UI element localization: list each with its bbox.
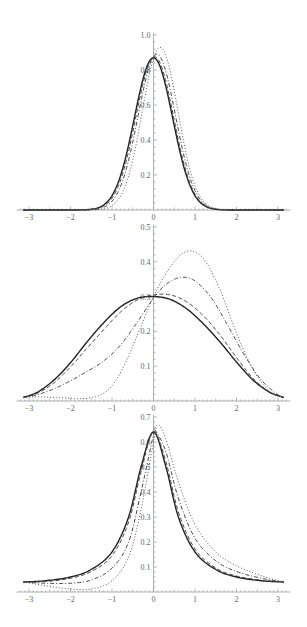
x-tick-label: 3	[276, 213, 280, 222]
x-tick-label: −2	[66, 595, 75, 604]
y-tick-label: 0.7	[141, 413, 151, 422]
chart-3: −3−2−101230.10.20.30.40.50.60.7	[17, 413, 291, 604]
x-tick-label: −3	[25, 404, 34, 413]
x-tick-label: −1	[108, 404, 117, 413]
y-tick-label: 0.2	[141, 171, 151, 180]
chart-canvas: −3−2−101230.20.40.60.81.0−3−2−101230.10.…	[0, 0, 307, 627]
x-tick-label: −1	[108, 595, 117, 604]
y-tick-label: 0.2	[141, 538, 151, 547]
x-tick-label: −3	[25, 213, 34, 222]
x-tick-label: −3	[25, 595, 34, 604]
y-tick-label: 0.1	[141, 362, 151, 371]
y-tick-label: 0.5	[141, 223, 151, 232]
x-tick-label: 2	[235, 404, 239, 413]
y-tick-label: 0.2	[141, 327, 151, 336]
y-tick-label: 0.4	[141, 136, 151, 145]
x-tick-label: 3	[276, 595, 280, 604]
x-tick-label: 1	[193, 213, 197, 222]
y-tick-label: 0.4	[141, 258, 151, 267]
x-tick-label: −2	[66, 213, 75, 222]
x-tick-label: 0	[152, 213, 156, 222]
y-tick-label: 0.4	[141, 488, 151, 497]
x-tick-label: 3	[276, 404, 280, 413]
chart-2: −3−2−101230.10.20.30.40.5	[17, 223, 291, 413]
x-tick-label: −1	[108, 213, 117, 222]
x-tick-label: 1	[193, 404, 197, 413]
x-tick-label: 2	[235, 213, 239, 222]
x-tick-label: 2	[235, 595, 239, 604]
chart-1: −3−2−101230.20.40.60.81.0	[17, 31, 291, 222]
x-tick-label: 0	[152, 595, 156, 604]
y-tick-label: 0.3	[141, 513, 151, 522]
y-tick-label: 0.1	[141, 563, 151, 572]
x-tick-label: −2	[66, 404, 75, 413]
y-tick-label: 0.6	[141, 101, 151, 110]
x-tick-label: 1	[193, 595, 197, 604]
y-tick-label: 1.0	[141, 31, 151, 40]
x-tick-label: 0	[152, 404, 156, 413]
